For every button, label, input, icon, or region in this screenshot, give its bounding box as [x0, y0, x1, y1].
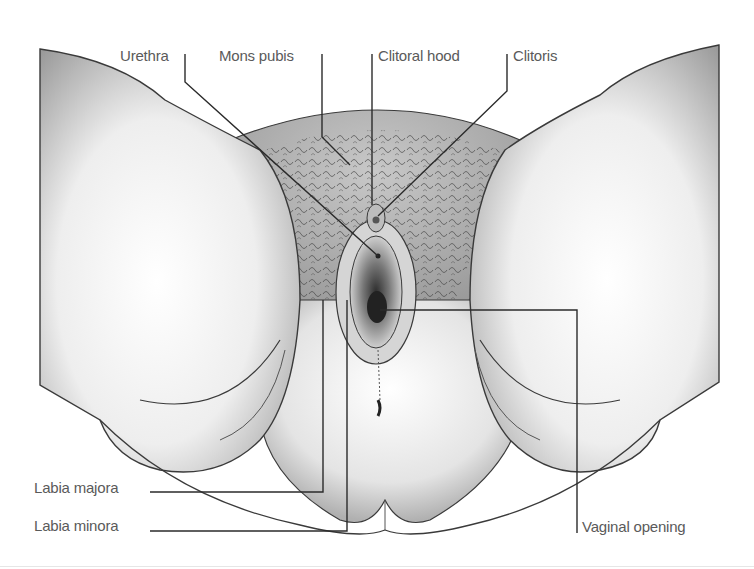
label-urethra: Urethra	[120, 47, 169, 65]
label-mons-pubis: Mons pubis	[219, 47, 294, 65]
body-silhouette	[40, 45, 719, 534]
bottom-divider	[0, 566, 754, 567]
label-vaginal-opening: Vaginal opening	[582, 518, 685, 536]
label-labia-minora: Labia minora	[34, 517, 118, 535]
vaginal-opening-shape	[367, 291, 387, 323]
label-labia-majora: Labia majora	[34, 479, 118, 497]
label-clitoris: Clitoris	[513, 47, 557, 65]
label-clitoral-hood: Clitoral hood	[378, 47, 460, 65]
right-thigh	[470, 45, 719, 472]
clitoris-shape	[373, 217, 380, 224]
